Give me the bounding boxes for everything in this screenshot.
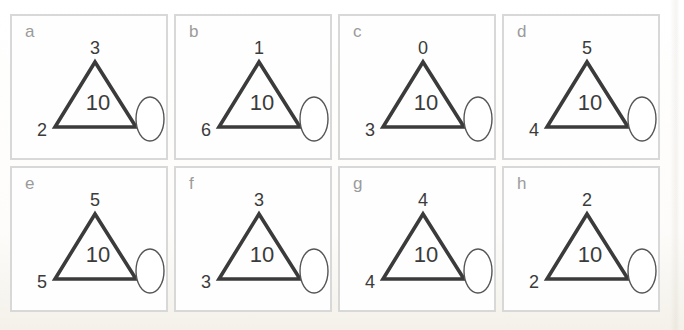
left-addend: 3 bbox=[201, 272, 211, 292]
top-addend: 5 bbox=[90, 190, 100, 210]
total-value: 10 bbox=[414, 242, 438, 267]
problem-panel-h: h 2 2 10 bbox=[502, 166, 660, 312]
number-triangle-diagram: 5 5 10 bbox=[12, 168, 166, 310]
problem-panel-b: b 1 6 10 bbox=[174, 14, 332, 160]
left-addend: 2 bbox=[529, 272, 539, 292]
answer-oval[interactable] bbox=[464, 97, 492, 141]
left-addend: 3 bbox=[365, 120, 375, 140]
problem-panel-a: a 3 2 10 bbox=[10, 14, 168, 160]
problem-panel-f: f 3 3 10 bbox=[174, 166, 332, 312]
top-addend: 3 bbox=[90, 38, 100, 58]
top-addend: 5 bbox=[582, 38, 592, 58]
scan-shadow-artifact bbox=[670, 0, 680, 330]
problem-panel-e: e 5 5 10 bbox=[10, 166, 168, 312]
number-triangle-diagram: 2 2 10 bbox=[504, 168, 658, 310]
left-addend: 2 bbox=[37, 120, 47, 140]
left-addend: 4 bbox=[365, 272, 375, 292]
answer-oval[interactable] bbox=[136, 249, 164, 293]
total-value: 10 bbox=[86, 90, 110, 115]
top-addend: 1 bbox=[254, 38, 264, 58]
number-triangle-diagram: 3 2 10 bbox=[12, 16, 166, 158]
top-addend: 3 bbox=[254, 190, 264, 210]
worksheet-grid: a 3 2 10 b 1 6 10 c 0 3 10 d bbox=[10, 14, 660, 312]
total-value: 10 bbox=[250, 242, 274, 267]
problem-panel-g: g 4 4 10 bbox=[338, 166, 496, 312]
total-value: 10 bbox=[414, 90, 438, 115]
number-triangle-diagram: 1 6 10 bbox=[176, 16, 330, 158]
number-triangle-diagram: 0 3 10 bbox=[340, 16, 494, 158]
number-triangle-diagram: 4 4 10 bbox=[340, 168, 494, 310]
answer-oval[interactable] bbox=[628, 249, 656, 293]
total-value: 10 bbox=[578, 90, 602, 115]
problem-panel-d: d 5 4 10 bbox=[502, 14, 660, 160]
total-value: 10 bbox=[86, 242, 110, 267]
total-value: 10 bbox=[578, 242, 602, 267]
number-triangle-diagram: 3 3 10 bbox=[176, 168, 330, 310]
left-addend: 6 bbox=[201, 120, 211, 140]
answer-oval[interactable] bbox=[136, 97, 164, 141]
top-addend: 4 bbox=[418, 190, 428, 210]
problem-panel-c: c 0 3 10 bbox=[338, 14, 496, 160]
left-addend: 5 bbox=[37, 272, 47, 292]
answer-oval[interactable] bbox=[628, 97, 656, 141]
answer-oval[interactable] bbox=[300, 97, 328, 141]
total-value: 10 bbox=[250, 90, 274, 115]
left-addend: 4 bbox=[529, 120, 539, 140]
number-triangle-diagram: 5 4 10 bbox=[504, 16, 658, 158]
answer-oval[interactable] bbox=[300, 249, 328, 293]
answer-oval[interactable] bbox=[464, 249, 492, 293]
top-addend: 0 bbox=[418, 38, 428, 58]
top-addend: 2 bbox=[582, 190, 592, 210]
